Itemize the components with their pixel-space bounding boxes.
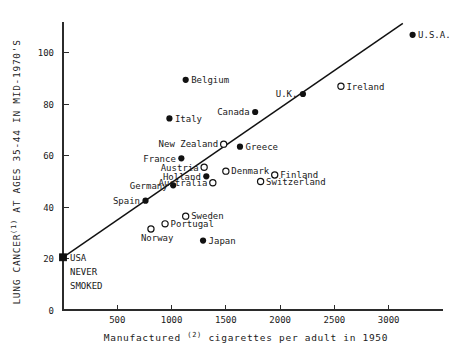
data-point-label: Greece — [245, 142, 278, 152]
data-point: Italy — [166, 114, 202, 124]
data-point-label: U.S.A. — [418, 30, 451, 40]
data-point: Switzerland — [258, 177, 326, 187]
data-point: New Zealand — [159, 139, 227, 149]
y-title-lead: LUNG CANCER — [11, 234, 22, 305]
filled-circle-marker — [410, 32, 416, 38]
data-point: U.S.A. — [410, 30, 451, 40]
reference-label-line: NEVER — [70, 267, 98, 277]
x-axis-title: Manufactured (2) cigarettes per adult in… — [104, 331, 388, 343]
x-tick-label: 2000 — [269, 315, 291, 325]
data-point: Greece — [237, 142, 278, 152]
lung-cancer-scatter-figure: 50010001500200025003000 020406080100 U.S… — [0, 0, 461, 353]
fit-line-group — [63, 23, 403, 257]
data-point-label: Belgium — [191, 75, 229, 85]
open-circle-marker — [221, 141, 227, 147]
open-circle-marker — [258, 178, 264, 184]
y-title-tail: AT AGES 35-44 IN MID-1970'S — [11, 39, 22, 219]
filled-circle-marker — [300, 91, 306, 97]
data-point: U.K. — [276, 89, 306, 99]
filled-circle-marker — [178, 155, 184, 161]
data-point: Denmark — [223, 166, 270, 176]
data-point-label: Norway — [141, 233, 174, 243]
data-point-label: Ireland — [346, 82, 384, 92]
y-axis-ticks: 020406080100 — [38, 48, 69, 315]
data-point-label: Japan — [209, 236, 236, 246]
data-point: Japan — [200, 236, 236, 246]
y-tick-label: 0 — [49, 306, 54, 316]
x-tick-label: 3000 — [378, 315, 400, 325]
filled-circle-marker — [252, 109, 258, 115]
x-tick-label: 500 — [109, 315, 125, 325]
filled-circle-marker — [237, 144, 243, 150]
reference-square-marker — [60, 254, 67, 261]
scatter-plot-svg: 50010001500200025003000 020406080100 U.S… — [0, 0, 461, 353]
open-circle-marker — [210, 180, 216, 186]
open-circle-marker — [162, 221, 168, 227]
open-circle-marker — [223, 168, 229, 174]
data-point-label: Germany — [130, 181, 169, 191]
filled-circle-marker — [183, 77, 189, 83]
data-point: Ireland — [338, 82, 385, 92]
x-title-lead: Manufactured — [104, 332, 187, 343]
x-tick-label: 1000 — [161, 315, 183, 325]
x-title-tail: cigarettes per adult in 1950 — [202, 332, 388, 343]
data-point-label: Denmark — [231, 166, 270, 176]
open-circle-marker — [201, 164, 207, 170]
data-point: Canada — [217, 107, 258, 117]
reference-label-line: SMOKED — [70, 281, 103, 291]
y-title-superscript: (1) — [10, 219, 18, 234]
x-tick-label: 1500 — [215, 315, 237, 325]
filled-circle-marker — [166, 115, 172, 121]
usa-never-smoked-reference: USANEVERSMOKED — [60, 253, 103, 291]
reference-label-line: USA — [70, 253, 87, 263]
y-tick-label: 80 — [43, 100, 54, 110]
filled-circle-marker — [200, 237, 206, 243]
y-tick-label: 40 — [43, 203, 54, 213]
data-point-label: Portugal — [171, 219, 214, 229]
data-points-group: U.S.A.IrelandBelgiumU.K.CanadaItalyNew Z… — [113, 30, 451, 246]
data-point-label: Switzerland — [266, 177, 326, 187]
regression-line — [63, 23, 403, 257]
y-tick-label: 60 — [43, 151, 54, 161]
x-title-superscript: (2) — [187, 331, 202, 339]
open-circle-marker — [338, 83, 344, 89]
data-point-label: Canada — [217, 107, 250, 117]
data-point-label: U.K. — [276, 89, 298, 99]
x-axis-ticks: 50010001500200025003000 — [109, 305, 399, 325]
data-point: Norway — [141, 226, 174, 243]
open-circle-marker — [148, 226, 154, 232]
data-point-label: Spain — [113, 196, 140, 206]
filled-circle-marker — [170, 182, 176, 188]
x-tick-label: 2500 — [324, 315, 346, 325]
data-point-label: New Zealand — [159, 139, 219, 149]
y-axis-title: LUNG CANCER(1) AT AGES 35-44 IN MID-1970… — [10, 39, 22, 304]
y-tick-label: 100 — [38, 48, 54, 58]
data-point-label: Italy — [175, 114, 203, 124]
filled-circle-marker — [142, 198, 148, 204]
data-point: Portugal — [162, 219, 214, 229]
y-tick-label: 20 — [43, 254, 54, 264]
data-point: Belgium — [183, 75, 230, 85]
data-point: Spain — [113, 196, 149, 206]
